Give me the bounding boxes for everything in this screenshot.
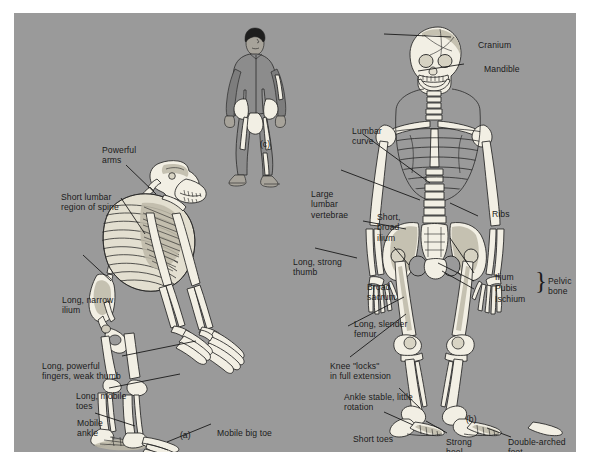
label-long-narrow-ilium: Long, narrow ilium bbox=[62, 295, 113, 316]
figure-panel: .bone{fill:#f2efe4;stroke:#232323;stroke… bbox=[14, 13, 576, 452]
figure-id-a: (a) bbox=[180, 430, 191, 440]
label-cranium: Cranium bbox=[478, 40, 511, 50]
figure-id-b: (b) bbox=[466, 414, 477, 424]
label-ankle-stable: Ankle stable, little rotation bbox=[344, 392, 413, 413]
label-strong-heel: Strong heel bbox=[446, 437, 472, 452]
label-mobile-ankle: Mobile ankle bbox=[77, 418, 103, 439]
label-short-lumbar-region: Short lumbar region of spine bbox=[61, 192, 119, 213]
label-double-arched-foot: Double-arched foot bbox=[508, 437, 566, 452]
label-pelvic-bone: Pelvic bone bbox=[548, 276, 572, 297]
label-long-mobile-toes: Long, mobile toes bbox=[76, 391, 126, 412]
label-mobile-big-toe: Mobile big toe bbox=[217, 428, 272, 438]
figure-root: .bone{fill:#f2efe4;stroke:#232323;stroke… bbox=[0, 0, 594, 475]
pelvic-bone-brace: } bbox=[535, 268, 547, 293]
label-long-powerful-fingers: Long, powerful fingers, weak thumb bbox=[42, 361, 121, 382]
label-knee-locks: Knee "locks" in full extension bbox=[330, 361, 391, 382]
label-short-toes: Short toes bbox=[353, 434, 393, 444]
label-short-broad-ilium: Short, broad ilium bbox=[377, 212, 401, 243]
label-ribs: Ribs bbox=[492, 209, 510, 219]
label-long-slender-femur: Long, slender femur bbox=[354, 319, 407, 340]
label-ilium: Ilium bbox=[495, 272, 514, 282]
walking-man-figure bbox=[225, 28, 286, 187]
figure-id-c: (c) bbox=[260, 139, 270, 149]
human-lumbar-vertebrae bbox=[423, 184, 446, 223]
human-cervical-spine bbox=[426, 91, 442, 120]
label-long-strong-thumb: Long, strong thumb bbox=[293, 257, 342, 278]
skeleton-artwork: .bone{fill:#f2efe4;stroke:#232323;stroke… bbox=[14, 13, 576, 452]
label-powerful-arms: Powerful arms bbox=[102, 145, 136, 166]
label-mandible: Mandible bbox=[484, 64, 520, 74]
label-pubis: Pubis bbox=[495, 283, 517, 293]
label-lumbar-curve: Lumbar curve bbox=[352, 126, 382, 147]
label-large-lumbar-vertebrae: Large lumbar vertebrae bbox=[311, 189, 348, 220]
label-broad-sacrum: Broad sacrum bbox=[367, 282, 396, 303]
label-ischium: Ischium bbox=[495, 294, 525, 304]
